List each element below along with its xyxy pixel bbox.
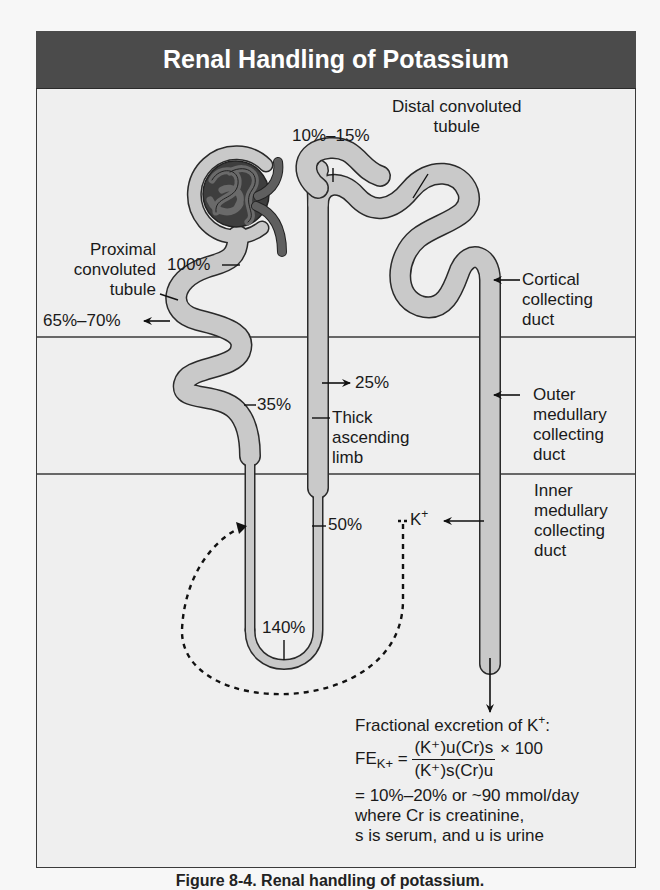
creatinine-note: where Cr is creatinine, [355,806,524,826]
fractional-excretion-heading: Fractional excretion of K+: [355,716,550,737]
thick-ascending-limb-label: Thick ascending limb [332,408,410,468]
thick-limb-lumen-percent: 50% [328,515,362,535]
loop-tip-percent: 140% [262,618,305,638]
filtered-load-percent: 100% [167,255,210,275]
early-distal-percent: 10%–15% [292,126,370,146]
outer-medullary-collecting-duct-label: Outer medullary collecting duct [533,385,607,465]
end-proximal-percent: 35% [257,395,291,415]
inner-medullary-collecting-duct-label: Inner medullary collecting duct [534,481,608,561]
proximal-tubule-label: Proximal convoluted tubule [66,240,156,300]
thick-limb-reabsorption-percent: 25% [355,373,389,393]
cortical-collecting-duct-label: Cortical collecting duct [522,270,593,330]
fe-fraction: (K⁺)u(Cr)s(K⁺)s(Cr)u [412,738,495,781]
fractional-excretion-equation: FEK+ = (K⁺)u(Cr)s(K⁺)s(Cr)u × 100 [355,738,543,781]
flux-arrows [144,280,520,712]
serum-urine-note: s is serum, and u is urine [355,826,544,846]
fractional-excretion-result: = 10%–20% or ~90 mmol/day [355,786,579,806]
k-recycling-label: K+ [410,510,428,531]
distal-tubule-label: Distal convoluted tubule [392,97,521,137]
proximal-reabsorption-percent: 65%–70% [43,311,121,331]
figure-caption: Figure 8-4. Renal handling of potassium. [0,872,660,890]
fe-lhs: FEK+ [355,749,393,768]
